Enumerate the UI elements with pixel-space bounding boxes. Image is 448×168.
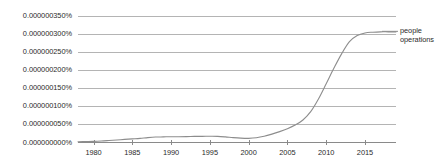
x-axis-tick-label: 2000 [241,148,257,157]
x-axis-tick-label: 1985 [124,148,140,157]
x-axis-tick-label: 1990 [163,148,179,157]
x-axis-tick-label: 1995 [202,148,218,157]
series-end-label-line-1: people [400,26,434,36]
x-axis-tick-label: 2010 [318,148,334,157]
series-end-label: people operations [400,26,434,45]
x-axis-tick-label: 1980 [85,148,101,157]
x-axis-tick-label: 2005 [279,148,295,157]
series-end-label-line-2: operations [400,35,434,45]
ngram-frequency-chart: 0.000000000%0.000000050%0.000000100%0.00… [0,0,448,168]
x-axis-labels: 19801985199019952000200520102015 [0,0,448,168]
x-axis-tick-label: 2015 [357,148,373,157]
